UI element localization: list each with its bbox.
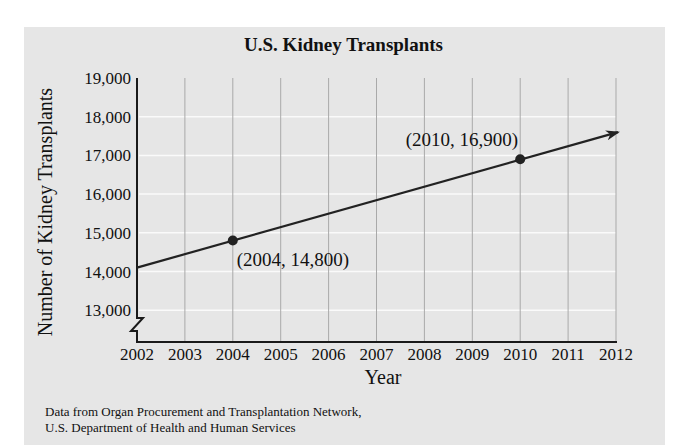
source-note: Data from Organ Procurement and Transpla… [45, 404, 361, 436]
axes [131, 78, 617, 342]
x-tick-label: 2004 [216, 345, 251, 364]
y-tick-label: 13,000 [84, 301, 131, 320]
plot-area: 13,00014,00015,00016,00017,00018,00019,0… [0, 0, 687, 445]
source-line-1: Data from Organ Procurement and Transpla… [45, 404, 361, 420]
x-tick-label: 2012 [599, 345, 633, 364]
horizontal-gridlines [139, 117, 616, 311]
x-tick-label: 2006 [312, 345, 346, 364]
data-point [515, 154, 525, 164]
x-tick-label: 2007 [360, 345, 395, 364]
x-tick-label: 2008 [407, 345, 441, 364]
x-tick-label: 2009 [455, 345, 489, 364]
y-tick-label: 17,000 [84, 146, 131, 165]
y-tick-label: 18,000 [84, 108, 131, 127]
trend-line-arrow [137, 132, 618, 267]
trend-line [137, 132, 618, 267]
x-axis-label: Year [365, 366, 402, 389]
x-tick-labels: 2002200320042005200620072008200920102011… [120, 345, 633, 364]
source-line-2: U.S. Department of Health and Human Serv… [45, 420, 361, 436]
axes-with-break [131, 78, 617, 342]
x-tick-label: 2005 [264, 345, 298, 364]
x-tick-label: 2010 [503, 345, 537, 364]
vertical-gridlines [185, 78, 616, 342]
data-point-label: (2004, 14,800) [237, 249, 349, 271]
data-point [228, 236, 238, 246]
y-tick-labels: 13,00014,00015,00016,00017,00018,00019,0… [84, 69, 131, 320]
y-tick-label: 14,000 [84, 263, 131, 282]
data-point-label: (2010, 16,900) [406, 129, 518, 151]
x-tick-label: 2002 [120, 345, 154, 364]
y-tick-label: 15,000 [84, 224, 131, 243]
x-tick-label: 2003 [168, 345, 202, 364]
x-tick-label: 2011 [551, 345, 584, 364]
y-tick-label: 16,000 [84, 185, 131, 204]
y-tick-label: 19,000 [84, 69, 131, 88]
